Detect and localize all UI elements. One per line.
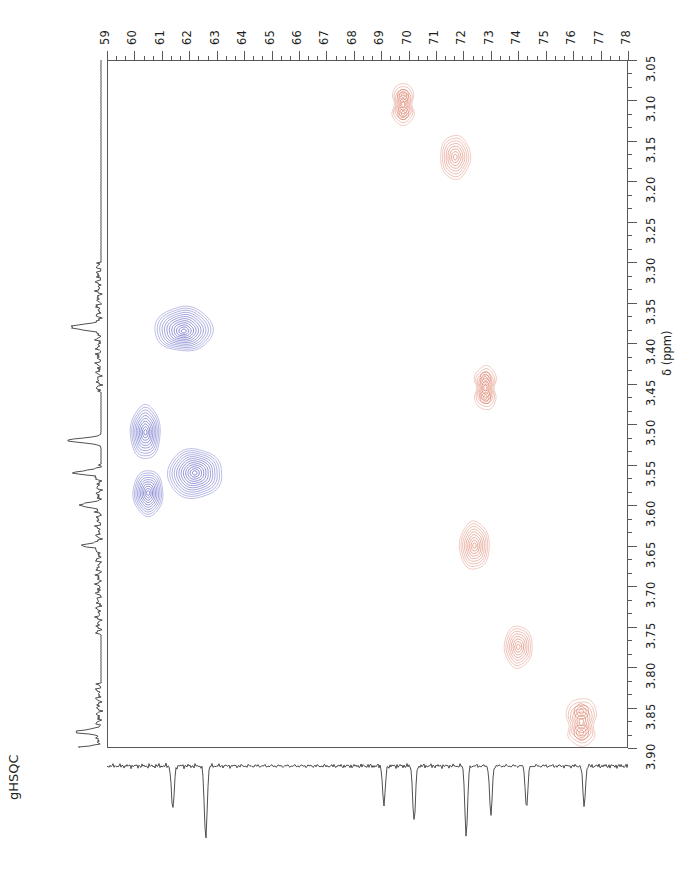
proton-tick-minor	[628, 249, 632, 250]
carbon-tick-label: 73	[482, 30, 496, 45]
proton-tick-major	[628, 303, 637, 304]
proton-tick-minor	[628, 600, 632, 601]
carbon-tick-label: 74	[509, 30, 523, 45]
carbon-tick-label: 76	[564, 30, 578, 45]
proton-tick-minor	[628, 438, 632, 439]
proton-tick-minor	[628, 73, 632, 74]
proton-tick-minor	[628, 451, 632, 452]
proton-tick-minor	[628, 573, 632, 574]
proton-tick-minor	[628, 532, 632, 533]
carbon-tick-major	[107, 51, 108, 60]
negative-contour-group	[130, 306, 222, 517]
proton-tick-major	[628, 100, 637, 101]
carbon-tick-label: 65	[263, 30, 277, 45]
contour-peak	[155, 306, 213, 351]
contour-peak	[474, 365, 496, 409]
experiment-label: gHSQC	[6, 754, 21, 800]
carbon-tick-major	[628, 51, 629, 60]
proton-tick-major	[628, 667, 637, 668]
proton-tick-minor	[628, 721, 632, 722]
proton-tick-label: 3.85	[644, 703, 658, 729]
carbon-tick-label: 64	[235, 30, 249, 45]
proton-tick-major	[628, 465, 637, 466]
proton-tick-minor	[628, 195, 632, 196]
carbon-tick-major	[573, 51, 574, 60]
proton-tick-minor	[628, 87, 632, 88]
carbon-tick-major	[217, 51, 218, 60]
proton-tick-minor	[628, 654, 632, 655]
proton-tick-minor	[628, 357, 632, 358]
proton-tick-major	[628, 262, 637, 263]
proton-tick-minor	[628, 735, 632, 736]
proton-tick-major	[628, 748, 637, 749]
proton-tick-label: 3.55	[644, 460, 658, 486]
proton-tick-minor	[628, 559, 632, 560]
proton-tick-minor	[628, 114, 632, 115]
carbon-tick-label: 75	[537, 30, 551, 45]
contour-peak	[441, 135, 471, 179]
carbon-tick-label: 63	[208, 30, 222, 45]
proton-tick-major	[628, 181, 637, 182]
proton-tick-label: 3.35	[644, 298, 658, 324]
proton-tick-label: 3.80	[644, 663, 658, 689]
carbon-tick-major	[546, 51, 547, 60]
carbon-tick-label: 62	[180, 30, 194, 45]
proton-tick-minor	[628, 289, 632, 290]
proton-tick-minor	[628, 370, 632, 371]
carbon-tick-major	[436, 51, 437, 60]
carbon-tick-major	[299, 51, 300, 60]
contour-peak	[566, 699, 596, 747]
proton-tick-major	[628, 586, 637, 587]
contour-peak	[168, 449, 222, 499]
carbon-tick-major	[409, 51, 410, 60]
carbon-tick-label: 66	[290, 30, 304, 45]
contour-peak	[130, 404, 160, 458]
proton-tick-minor	[628, 316, 632, 317]
proton-tick-minor	[628, 154, 632, 155]
proton-tick-major	[628, 60, 637, 61]
proton-tick-label: 3.05	[644, 56, 658, 82]
carbon-tick-major	[189, 51, 190, 60]
contour-plot	[107, 60, 628, 748]
proton-tick-label: 3.10	[644, 96, 658, 122]
proton-tick-minor	[628, 492, 632, 493]
carbon-tick-label: 72	[454, 30, 468, 45]
proton-tick-major	[628, 505, 637, 506]
carbon-tick-label: 69	[372, 30, 386, 45]
carbon-tick-label: 78	[619, 30, 633, 45]
carbon-tick-major	[491, 51, 492, 60]
contour-peak	[133, 471, 163, 517]
proton-tick-label: 3.65	[644, 541, 658, 567]
proton-tick-major	[628, 627, 637, 628]
proton-axis-title: δ (ppm)	[660, 331, 674, 376]
carbon-tick-major	[326, 51, 327, 60]
proton-axis: 3.053.103.153.203.253.303.353.403.453.50…	[628, 60, 642, 748]
proton-tick-minor	[628, 519, 632, 520]
carbon-tick-label: 59	[98, 30, 112, 45]
carbon-tick-label: 60	[125, 30, 139, 45]
proton-tick-label: 3.60	[644, 501, 658, 527]
proton-tick-minor	[628, 613, 632, 614]
carbon-tick-major	[463, 51, 464, 60]
proton-tick-label: 3.25	[644, 217, 658, 243]
carbon-axis: 5960616263646566676869707172737475767778	[107, 46, 628, 60]
carbon-tick-label: 71	[427, 30, 441, 45]
carbon-tick-major	[601, 51, 602, 60]
contour-peak	[504, 626, 532, 668]
proton-tick-minor	[628, 208, 632, 209]
proton-tick-minor	[628, 168, 632, 169]
proton-tick-label: 3.50	[644, 420, 658, 446]
proton-tick-major	[628, 546, 637, 547]
proton-tick-minor	[628, 127, 632, 128]
carbon-tick-major	[272, 51, 273, 60]
proton-tick-minor	[628, 276, 632, 277]
carbon-tick-label: 67	[317, 30, 331, 45]
proton-tick-major	[628, 343, 637, 344]
proton-tick-label: 3.20	[644, 177, 658, 203]
proton-tick-label: 3.70	[644, 582, 658, 608]
carbon-tick-major	[134, 51, 135, 60]
proton-tick-label: 3.75	[644, 622, 658, 648]
carbon-tick-major	[518, 51, 519, 60]
carbon-tick-major	[244, 51, 245, 60]
proton-tick-minor	[628, 411, 632, 412]
